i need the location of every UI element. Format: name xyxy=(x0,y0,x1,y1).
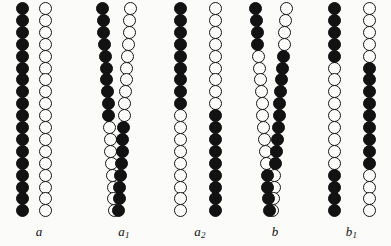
group-label-a: a xyxy=(0,224,78,240)
bead-open xyxy=(363,169,376,182)
bead-filled xyxy=(16,26,29,39)
group-label-b: b xyxy=(240,224,310,240)
bead-filled xyxy=(269,157,282,170)
bead-filled xyxy=(209,157,222,170)
bead-open xyxy=(39,50,52,63)
bead-filled xyxy=(363,157,376,170)
bead-open xyxy=(39,133,52,146)
bead-filled xyxy=(117,121,130,134)
bead-open xyxy=(122,38,135,51)
bead-filled xyxy=(261,169,274,182)
bead-filled xyxy=(115,157,128,170)
bead-filled xyxy=(174,26,187,39)
bead-filled xyxy=(277,50,290,63)
group-label-base: a xyxy=(194,224,201,239)
bead-open xyxy=(328,157,341,170)
bead-filled xyxy=(328,14,341,27)
bead-filled xyxy=(16,38,29,51)
bead-open xyxy=(258,133,271,146)
bead-filled xyxy=(328,26,341,39)
bead-filled xyxy=(328,50,341,63)
bead-open xyxy=(124,2,137,15)
chromosome-group-b: b xyxy=(240,0,310,246)
group-label-base: b xyxy=(346,224,353,239)
bead-open xyxy=(278,26,291,39)
bead-filled xyxy=(16,14,29,27)
bead-open xyxy=(328,133,341,146)
bead-filled xyxy=(16,145,29,158)
bead-chain-a-chain-right xyxy=(39,0,52,227)
bead-filled xyxy=(250,14,263,27)
bead-filled xyxy=(363,133,376,146)
bead-open xyxy=(363,204,376,217)
bead-open xyxy=(39,157,52,170)
group-label-a1: a1 xyxy=(88,224,160,240)
bead-filled xyxy=(328,204,341,217)
bead-open xyxy=(39,145,52,158)
bead-open xyxy=(174,204,187,217)
bead-filled xyxy=(97,26,110,39)
bead-filled xyxy=(116,133,129,146)
bead-chain-b1-chain-right xyxy=(363,0,376,227)
bead-chain-a2-chain-right xyxy=(209,0,222,227)
bead-filled xyxy=(16,157,29,170)
bead-open xyxy=(328,145,341,158)
bead-filled xyxy=(116,145,129,158)
bead-open xyxy=(209,50,222,63)
bead-open xyxy=(174,133,187,146)
bead-chain-a1-chain-left xyxy=(102,0,115,227)
bead-filled xyxy=(270,145,283,158)
bead-chain-b-chain-left xyxy=(256,0,269,227)
chromosome-group-b1: b1 xyxy=(312,0,391,246)
bead-open xyxy=(209,26,222,39)
bead-filled xyxy=(209,145,222,158)
group-label-base: b xyxy=(272,224,279,239)
bead-filled xyxy=(174,38,187,51)
crossover-figure: aa1a2bb1 xyxy=(0,0,391,246)
bead-open xyxy=(363,26,376,39)
group-label-b1: b1 xyxy=(312,224,391,240)
bead-filled xyxy=(174,97,187,110)
bead-open xyxy=(279,14,292,27)
bead-open xyxy=(280,2,293,15)
bead-filled xyxy=(363,145,376,158)
bead-filled xyxy=(16,133,29,146)
bead-filled xyxy=(251,38,264,51)
group-label-subscript: 1 xyxy=(125,230,130,240)
bead-filled xyxy=(328,169,341,182)
group-label-subscript: 1 xyxy=(353,230,358,240)
bead-filled xyxy=(16,50,29,63)
bead-chain-a-chain-left xyxy=(16,0,29,227)
bead-chain-b-chain-right xyxy=(273,0,286,227)
bead-filled xyxy=(99,50,112,63)
bead-filled xyxy=(97,14,110,27)
bead-open xyxy=(174,157,187,170)
bead-open xyxy=(39,204,52,217)
bead-open xyxy=(123,26,136,39)
bead-filled xyxy=(112,204,125,217)
bead-open xyxy=(363,14,376,27)
bead-open xyxy=(363,50,376,63)
bead-open xyxy=(209,14,222,27)
bead-open xyxy=(39,169,52,182)
chromosome-group-a1: a1 xyxy=(88,0,160,246)
bead-open xyxy=(39,26,52,39)
bead-open xyxy=(121,50,134,63)
bead-filled xyxy=(271,133,284,146)
bead-open xyxy=(174,169,187,182)
bead-filled xyxy=(16,169,29,182)
bead-open xyxy=(123,14,136,27)
bead-open xyxy=(252,50,265,63)
bead-filled xyxy=(209,169,222,182)
group-label-base: a xyxy=(118,224,125,239)
bead-filled xyxy=(209,133,222,146)
bead-filled xyxy=(16,204,29,217)
bead-chain-a1-chain-right xyxy=(118,0,131,227)
bead-open xyxy=(39,14,52,27)
bead-chain-a2-chain-left xyxy=(174,0,187,227)
bead-filled xyxy=(251,26,264,39)
bead-open xyxy=(278,38,291,51)
bead-open xyxy=(174,145,187,158)
bead-open xyxy=(39,38,52,51)
bead-filled xyxy=(98,38,111,51)
